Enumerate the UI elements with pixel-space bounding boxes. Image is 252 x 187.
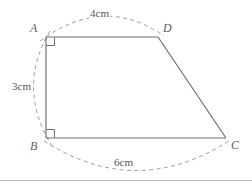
right-angle-marker-a (46, 38, 55, 46)
arc-measure-bc (44, 141, 229, 171)
quadrilateral-abcd (46, 37, 226, 138)
arc-measure-ab (33, 31, 52, 146)
vertex-label-a: A (30, 22, 37, 34)
measurement-arcs (33, 16, 229, 170)
geometry-figure: A D B C 4cm 3cm 6cm (0, 0, 252, 187)
measure-label-ab: 3cm (11, 81, 32, 92)
measure-label-ad: 4cm (89, 8, 110, 19)
vertex-label-d: D (163, 22, 172, 34)
measure-label-bc: 6cm (113, 157, 134, 168)
right-angle-marker-b (46, 130, 55, 138)
edge-dc (158, 37, 226, 138)
vertex-label-b: B (30, 140, 37, 152)
right-angle-markers (46, 38, 55, 138)
bottom-divider (0, 180, 252, 181)
vertex-label-c: C (231, 139, 239, 151)
